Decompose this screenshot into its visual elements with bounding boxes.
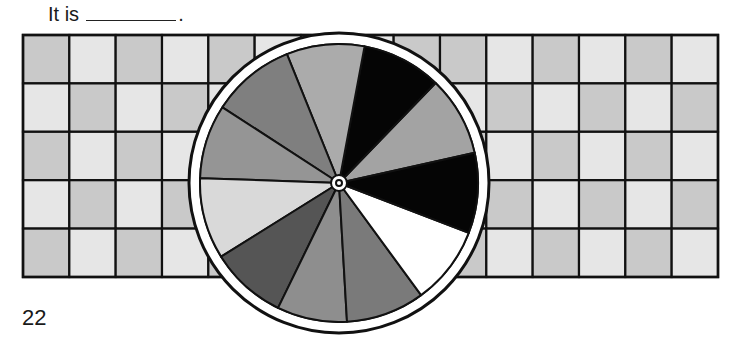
grid-cell (162, 35, 208, 83)
grid-cell (625, 132, 671, 180)
grid-cell (23, 35, 69, 83)
grid-cell (116, 132, 162, 180)
grid-cell (579, 229, 625, 277)
spinner[interactable] (189, 33, 489, 333)
grid-cell (23, 132, 69, 180)
grid-cell (69, 132, 115, 180)
grid-cell (486, 132, 532, 180)
grid-cell (672, 35, 718, 83)
grid-cell (23, 83, 69, 131)
grid-cell (69, 180, 115, 228)
grid-cell (533, 229, 579, 277)
grid-cell (625, 35, 671, 83)
answer-blank[interactable] (86, 2, 176, 21)
grid-cell (579, 132, 625, 180)
grid-cell (23, 180, 69, 228)
grid-cell (486, 180, 532, 228)
grid-cell (625, 180, 671, 228)
grid-cell (533, 132, 579, 180)
question-prompt: It is . (48, 2, 184, 26)
grid-cell (116, 180, 162, 228)
grid-cell (116, 83, 162, 131)
grid-cell (625, 229, 671, 277)
grid-cell (486, 229, 532, 277)
grid-cell (116, 229, 162, 277)
prompt-text: It is (48, 3, 79, 26)
grid-cell (486, 35, 532, 83)
prompt-period: . (178, 3, 184, 26)
page-number: 22 (22, 305, 46, 331)
grid-cell (69, 83, 115, 131)
grid-cell (533, 180, 579, 228)
grid-cell (23, 229, 69, 277)
grid-cell (69, 35, 115, 83)
grid-cell (116, 35, 162, 83)
grid-cell (440, 35, 486, 83)
grid-cell (579, 83, 625, 131)
grid-cell (625, 83, 671, 131)
spinner-pin (336, 180, 342, 186)
grid-cell (579, 180, 625, 228)
grid-cell (533, 35, 579, 83)
grid-cell (533, 83, 579, 131)
grid-cell (486, 83, 532, 131)
grid-cell (579, 35, 625, 83)
grid-cell (69, 229, 115, 277)
grid-cell (672, 132, 718, 180)
grid-cell (672, 180, 718, 228)
illustration (0, 0, 738, 338)
grid-cell (672, 229, 718, 277)
grid-cell (672, 83, 718, 131)
